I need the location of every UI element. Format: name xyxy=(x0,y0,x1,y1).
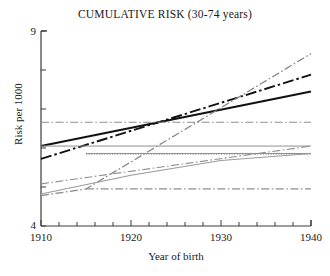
y-axis-ticks xyxy=(41,31,46,226)
axis-lines xyxy=(41,31,311,226)
series-line-gray-dashdot-rising-shallow xyxy=(41,146,311,184)
plot-canvas xyxy=(0,0,330,276)
series-line-gray-dashdot-steepest xyxy=(41,54,311,196)
series-line-black-solid-steep xyxy=(41,91,311,146)
series-line-gray-solid-rising-plateau xyxy=(41,153,311,194)
x-axis-ticks xyxy=(41,220,311,226)
figure: CUMULATIVE RISK (30-74 years) Risk per 1… xyxy=(0,0,330,276)
series-layer xyxy=(41,54,311,196)
